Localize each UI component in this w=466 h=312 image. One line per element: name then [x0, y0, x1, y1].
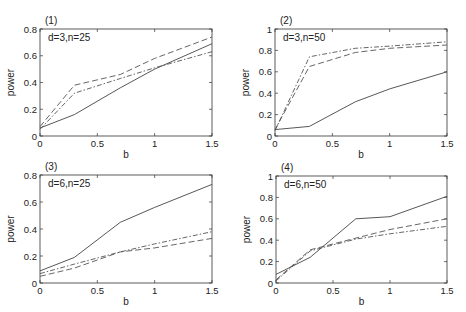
x-tick-label: 0 [37, 138, 42, 149]
y-tick-label: 0 [32, 278, 37, 289]
x-tick-label: 1.5 [205, 285, 218, 296]
y-tick-label: 0.4 [259, 88, 272, 99]
y-tick-label: 0 [32, 131, 37, 142]
panel-2: 00.511.500.20.40.60.81bpower(2)d=3,n=50 [240, 15, 454, 160]
series-dash-dot [40, 232, 212, 274]
x-axis-label: b [123, 296, 129, 307]
series-solid [40, 184, 212, 271]
y-axis-label: power [5, 215, 16, 243]
plot-frame [40, 29, 212, 136]
panel-4: 00.511.500.20.40.60.81bpower(4)d=6,n=50 [241, 162, 454, 307]
y-tick-label: 0 [268, 278, 273, 289]
x-tick-label: 0 [272, 138, 277, 149]
y-axis-label: power [241, 215, 252, 243]
y-tick-label: 0.2 [260, 256, 273, 267]
panel-label: (3) [45, 161, 57, 172]
panel-annotation: d=6,n=25 [48, 178, 91, 189]
panel-label: (1) [45, 15, 57, 26]
y-tick-label: 0.8 [259, 45, 272, 56]
x-axis-label: b [123, 149, 129, 160]
x-tick-label: 1.5 [440, 138, 453, 149]
x-tick-label: 0.5 [326, 138, 339, 149]
series-dashed [275, 45, 447, 130]
y-tick-label: 1 [267, 24, 272, 35]
panel-annotation: d=3,n=50 [283, 32, 326, 43]
series-dash-dot [276, 226, 447, 281]
plot-frame [275, 29, 447, 136]
panel-label: (4) [281, 162, 293, 173]
y-tick-label: 0.4 [24, 77, 37, 88]
x-tick-label: 1.5 [205, 138, 218, 149]
y-tick-label: 0.6 [24, 197, 37, 208]
y-tick-label: 0.2 [24, 104, 37, 115]
y-tick-label: 0.6 [24, 50, 37, 61]
x-tick-label: 0 [37, 285, 42, 296]
x-tick-label: 1.5 [440, 285, 453, 296]
series-solid [275, 72, 447, 130]
plot-frame [40, 175, 212, 283]
y-tick-label: 0.6 [260, 213, 273, 224]
y-tick-label: 0.8 [260, 192, 273, 203]
x-tick-label: 1 [387, 285, 392, 296]
y-tick-label: 0.8 [24, 24, 37, 35]
y-tick-label: 1 [268, 171, 273, 182]
panel-3: 00.511.500.20.40.60.8bpower(3)d=6,n=25 [5, 161, 219, 307]
panel-annotation: d=3,n=25 [48, 32, 91, 43]
y-tick-label: 0.8 [24, 170, 37, 181]
series-dash-dot [275, 42, 447, 131]
x-tick-label: 1 [152, 138, 157, 149]
x-axis-label: b [358, 149, 364, 160]
series-dashed [276, 219, 447, 280]
panel-label: (2) [280, 15, 292, 26]
x-tick-label: 0.5 [91, 138, 104, 149]
series-dashed [40, 37, 212, 127]
series-solid [40, 44, 212, 128]
panel-annotation: d=6,n=50 [284, 179, 327, 190]
y-tick-label: 0.4 [260, 235, 273, 246]
y-axis-label: power [240, 68, 251, 96]
series-solid [276, 196, 447, 274]
y-tick-label: 0.6 [259, 66, 272, 77]
y-tick-label: 0.4 [24, 224, 37, 235]
y-axis-label: power [5, 68, 16, 96]
x-tick-label: 0.5 [326, 285, 339, 296]
x-axis-label: b [359, 296, 365, 307]
y-tick-label: 0.2 [24, 251, 37, 262]
y-tick-label: 0 [267, 131, 272, 142]
x-tick-label: 0.5 [91, 285, 104, 296]
panel-1: 00.511.500.20.40.60.8bpower(1)d=3,n=25 [5, 15, 219, 160]
figure: 00.511.500.20.40.60.8bpower(1)d=3,n=2500… [0, 0, 466, 312]
x-tick-label: 1 [152, 285, 157, 296]
series-dashed [40, 238, 212, 276]
x-tick-label: 1 [387, 138, 392, 149]
x-tick-label: 0 [273, 285, 278, 296]
y-tick-label: 0.2 [259, 109, 272, 120]
